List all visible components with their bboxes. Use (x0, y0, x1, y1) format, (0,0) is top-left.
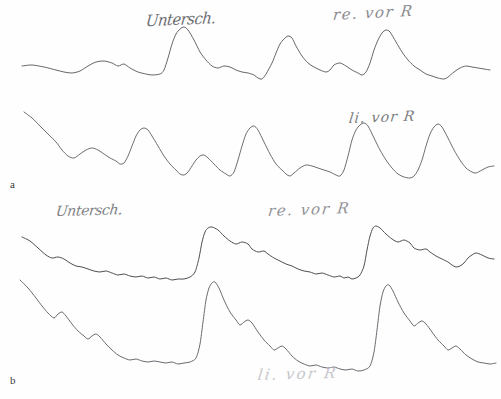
panel-b-traces (0, 195, 501, 399)
waveform-a-lower (24, 112, 494, 178)
panel-label-b: b (10, 374, 16, 386)
panel-b (0, 195, 501, 399)
panel-a (0, 0, 501, 200)
panel-label-a: a (10, 178, 15, 190)
waveform-a-upper (22, 27, 490, 79)
waveform-b-upper (22, 226, 494, 280)
figure-container: Untersch. re. vor R li. vor R Untersch. … (0, 0, 501, 399)
waveform-b-lower (20, 280, 496, 371)
panel-a-traces (0, 0, 501, 200)
